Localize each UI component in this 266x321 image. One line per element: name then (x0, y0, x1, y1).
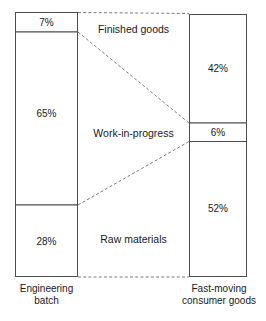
category-label-finished-goods: Finished goods (83, 23, 184, 35)
axis-label-engineering-batch: Engineering batch (4, 283, 89, 307)
axis-label-fmcg-line2: consumer goods (174, 295, 264, 307)
axis-label-engineering-batch-line1: Engineering (4, 283, 89, 295)
right-value-finished-goods: 42% (189, 63, 247, 74)
right-value-raw-materials: 52% (189, 203, 247, 214)
left-value-raw-materials: 28% (15, 236, 78, 247)
axis-label-fmcg-line1: Fast-moving (174, 283, 264, 295)
category-label-work-in-progress: Work-in-progress (78, 127, 189, 139)
connector-top (78, 13, 189, 14)
stacked-bar-comparison-chart: 7% 65% 28% 42% 6% 52% Finished goods Wor… (0, 0, 266, 321)
left-value-work-in-progress: 65% (15, 108, 78, 119)
axis-label-fast-moving-consumer-goods: Fast-moving consumer goods (174, 283, 264, 307)
right-value-work-in-progress: 6% (189, 127, 247, 138)
connector-work-to-raw (78, 142, 189, 206)
chart-canvas (0, 0, 266, 321)
axis-label-engineering-batch-line2: batch (4, 295, 89, 307)
category-label-raw-materials: Raw materials (83, 233, 184, 245)
connector-finished-to-work (78, 32, 189, 123)
right-bar-group (190, 15, 247, 277)
left-value-finished-goods: 7% (15, 17, 78, 28)
